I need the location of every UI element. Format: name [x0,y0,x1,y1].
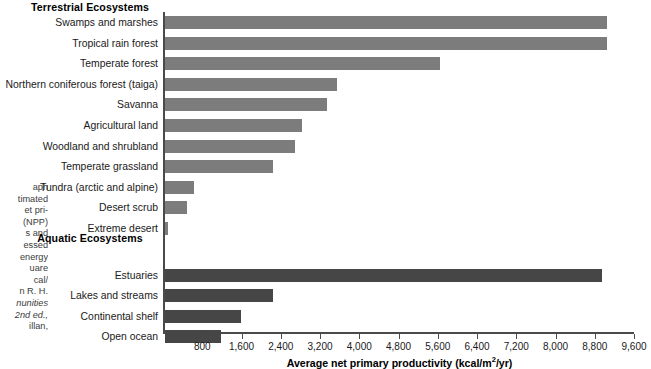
x-axis-tick [595,334,596,339]
category-label: Northern coniferous forest (taiga) [1,79,163,91]
category-label: Open ocean [1,331,163,343]
bar [165,119,302,132]
x-axis-tick [281,334,282,339]
bar [165,16,607,29]
category-label: Desert scrub [1,202,163,214]
bar [165,269,602,282]
bar [165,289,273,302]
category-label: Extreme desert [1,223,163,235]
bar [165,160,273,173]
category-label: Temperate grassland [1,161,163,173]
category-label: Lakes and streams [1,290,163,302]
x-axis-tick [202,334,203,339]
x-axis-tick [320,334,321,339]
x-axis-tick [438,334,439,339]
x-axis-tick [634,334,635,339]
category-label: Tropical rain forest [1,38,163,50]
x-axis-tick [359,334,360,339]
x-axis-tick [399,334,400,339]
x-axis-tick [516,334,517,339]
bar [165,98,327,111]
bar [165,140,295,153]
x-axis-tick [477,334,478,339]
category-label-column: Swamps and marshesTropical rain forestTe… [0,0,163,369]
x-axis-title-text: Average net primary productivity (kcal/m [287,357,492,369]
x-axis-title: Average net primary productivity (kcal/m… [163,355,636,369]
bar [165,37,607,50]
x-axis-title-tail: /yr) [496,357,513,369]
category-label: Swamps and marshes [1,17,163,29]
bar [165,181,194,194]
category-label: Estuaries [1,270,163,282]
x-axis-tick [556,334,557,339]
bar [165,78,337,91]
x-axis-tick-label: 9,600 [604,341,651,352]
bar [165,201,187,214]
bar [165,310,241,323]
category-label: Temperate forest [1,58,163,70]
category-label: Savanna [1,99,163,111]
category-label: Continental shelf [1,311,163,323]
category-label: Tundra (arctic and alpine) [1,182,163,194]
bar [165,222,168,235]
x-axis-tick [242,334,243,339]
category-label: Woodland and shrubland [1,141,163,153]
plot-area: 8001,6002,4003,2004,0004,8005,6006,4007,… [163,12,636,334]
category-label: Agricultural land [1,120,163,132]
bar [165,57,440,70]
